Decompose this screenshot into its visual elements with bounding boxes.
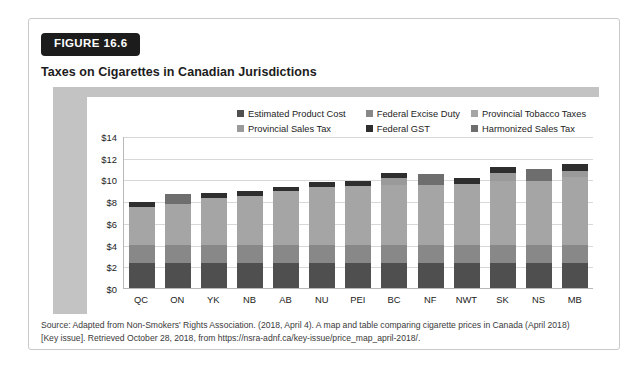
- source-line-2: [Key issue]. Retrieved October 28, 2018,…: [41, 332, 601, 345]
- y-tick-label: $0: [107, 284, 117, 295]
- legend-swatch-icon: [366, 110, 373, 117]
- bar-segment: [562, 177, 588, 244]
- x-tick-label: AB: [273, 290, 299, 310]
- x-tick-label: SK: [489, 290, 515, 310]
- figure-title: Taxes on Cigarettes in Canadian Jurisdic…: [41, 65, 317, 79]
- legend-label: Estimated Product Cost: [248, 109, 346, 119]
- bar-sk[interactable]: [490, 137, 516, 288]
- bar-segment: [273, 245, 299, 263]
- bar-segment: [309, 263, 335, 288]
- legend-item-federal-gst[interactable]: Federal GST: [366, 124, 471, 134]
- bar-on[interactable]: [165, 137, 191, 288]
- legend-item-federal-excise-duty[interactable]: Federal Excise Duty: [366, 109, 471, 119]
- bar-segment: [201, 263, 227, 288]
- legend-row: Provincial Sales TaxFederal GSTHarmonize…: [237, 121, 597, 136]
- bar-segment: [454, 263, 480, 288]
- chart-legend: Estimated Product CostFederal Excise Dut…: [237, 106, 597, 136]
- x-tick-label: NWT: [453, 290, 479, 310]
- x-tick-label: NB: [236, 290, 262, 310]
- bar-segment: [490, 173, 516, 181]
- plot-area: [123, 137, 593, 289]
- bar-qc[interactable]: [129, 137, 155, 288]
- figure-badge: FIGURE 16.6: [41, 33, 140, 56]
- bar-nf[interactable]: [418, 137, 444, 288]
- bar-segment: [418, 185, 444, 245]
- bar-yk[interactable]: [201, 137, 227, 288]
- bar-segment: [129, 263, 155, 288]
- y-tick-label: $14: [101, 132, 117, 143]
- source-line-1: Source: Adapted from Non-Smokers' Rights…: [41, 319, 601, 332]
- x-tick-label: NS: [526, 290, 552, 310]
- bar-segment: [273, 191, 299, 244]
- legend-item-harmonized-sales-tax[interactable]: Harmonized Sales Tax: [471, 124, 597, 134]
- plot-wrapper: $0$2$4$6$8$10$12$14 QCONYKNBABNUPEIBCNFN…: [87, 137, 599, 314]
- x-tick-label: BC: [381, 290, 407, 310]
- legend-swatch-icon: [366, 125, 373, 132]
- bar-segment: [129, 245, 155, 263]
- bar-pei[interactable]: [345, 137, 371, 288]
- bar-bc[interactable]: [381, 137, 407, 288]
- bar-segment: [418, 263, 444, 288]
- bar-nb[interactable]: [237, 137, 263, 288]
- bar-nwt[interactable]: [454, 137, 480, 288]
- legend-item-estimated-product-cost[interactable]: Estimated Product Cost: [237, 109, 366, 119]
- bar-nu[interactable]: [309, 137, 335, 288]
- bar-segment: [165, 194, 191, 205]
- y-tick-label: $8: [107, 197, 117, 208]
- legend-label: Provincial Sales Tax: [248, 124, 331, 134]
- bar-segment: [237, 245, 263, 263]
- x-tick-label: PEI: [345, 290, 371, 310]
- bar-segment: [490, 263, 516, 288]
- y-tick-label: $2: [107, 262, 117, 273]
- x-tick-label: ON: [164, 290, 190, 310]
- bar-segment: [526, 263, 552, 288]
- x-tick-label: QC: [128, 290, 154, 310]
- legend-swatch-icon: [471, 125, 478, 132]
- x-tick-label: NF: [417, 290, 443, 310]
- y-tick-label: $4: [107, 240, 117, 251]
- bar-segment: [562, 245, 588, 263]
- bar-segment: [490, 245, 516, 263]
- legend-swatch-icon: [237, 110, 244, 117]
- legend-item-provincial-tobacco-taxes[interactable]: Provincial Tobacco Taxes: [471, 109, 597, 119]
- bar-segment: [418, 174, 444, 185]
- bar-segment: [345, 263, 371, 288]
- legend-label: Harmonized Sales Tax: [482, 124, 575, 134]
- bar-ab[interactable]: [273, 137, 299, 288]
- legend-swatch-icon: [471, 110, 478, 117]
- x-tick-label: MB: [562, 290, 588, 310]
- bar-segment: [309, 245, 335, 263]
- y-tick-label: $6: [107, 218, 117, 229]
- bar-segment: [165, 263, 191, 288]
- bar-mb[interactable]: [562, 137, 588, 288]
- legend-label: Federal Excise Duty: [377, 109, 460, 119]
- page-root: FIGURE 16.6 Taxes on Cigarettes in Canad…: [0, 0, 643, 367]
- bar-segment: [165, 204, 191, 244]
- y-axis: $0$2$4$6$8$10$12$14: [87, 137, 121, 289]
- legend-label: Provincial Tobacco Taxes: [482, 109, 586, 119]
- bar-segment: [237, 263, 263, 288]
- bar-segment: [237, 196, 263, 245]
- bar-segment: [381, 263, 407, 288]
- y-tick-label: $10: [101, 175, 117, 186]
- legend-swatch-icon: [237, 125, 244, 132]
- bar-segment: [562, 263, 588, 288]
- bar-segment: [381, 185, 407, 245]
- bar-segment: [201, 245, 227, 263]
- bar-segment: [526, 245, 552, 263]
- bar-segment: [526, 181, 552, 245]
- bar-segment: [129, 207, 155, 245]
- bar-ns[interactable]: [526, 137, 552, 288]
- bar-segment: [309, 187, 335, 245]
- bar-segment: [345, 186, 371, 245]
- chart-inner: Estimated Product CostFederal Excise Dut…: [87, 97, 599, 314]
- legend-label: Federal GST: [377, 124, 430, 134]
- x-axis: QCONYKNBABNUPEIBCNFNWTSKNSMB: [123, 290, 593, 310]
- bar-segment: [273, 263, 299, 288]
- bar-segment: [381, 245, 407, 263]
- x-tick-label: NU: [309, 290, 335, 310]
- legend-item-provincial-sales-tax[interactable]: Provincial Sales Tax: [237, 124, 366, 134]
- bar-segment: [454, 245, 480, 263]
- bar-segment: [165, 245, 191, 263]
- bar-segment: [345, 245, 371, 263]
